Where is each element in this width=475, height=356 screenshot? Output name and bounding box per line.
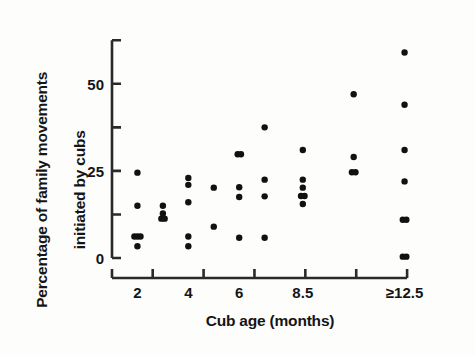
- data-point: [185, 175, 191, 181]
- data-point: [261, 124, 267, 130]
- data-point: [401, 49, 407, 55]
- x-tick-label-8.5: 8.5: [292, 284, 313, 301]
- data-point: [261, 235, 267, 241]
- data-point: [137, 233, 143, 239]
- data-point: [401, 147, 407, 153]
- data-point: [300, 201, 306, 207]
- y-tick-label-0: 0: [64, 250, 104, 267]
- data-point: [211, 184, 217, 190]
- data-point: [350, 154, 356, 160]
- y-tick-label-50: 50: [64, 75, 104, 92]
- x-tick-label-6: 6: [235, 284, 243, 301]
- data-point: [300, 184, 306, 190]
- data-point: [261, 176, 267, 182]
- data-point: [160, 203, 166, 209]
- data-point: [185, 199, 191, 205]
- data-point: [401, 102, 407, 108]
- data-point: [161, 215, 167, 221]
- data-point: [403, 217, 409, 223]
- data-point: [238, 151, 244, 157]
- y-axis-spine: [112, 40, 121, 258]
- data-point: [352, 169, 358, 175]
- x-tick-label-2: 2: [133, 284, 141, 301]
- data-point: [403, 253, 409, 259]
- data-point: [300, 176, 306, 182]
- data-point: [236, 184, 242, 190]
- x-axis-spine: [112, 269, 407, 278]
- data-point: [261, 193, 267, 199]
- data-point: [134, 203, 140, 209]
- data-point: [185, 243, 191, 249]
- data-point: [301, 193, 307, 199]
- data-point: [185, 233, 191, 239]
- data-point: [300, 147, 306, 153]
- data-point: [211, 223, 217, 229]
- data-points: [131, 49, 409, 260]
- axes: [112, 40, 407, 278]
- data-point: [185, 182, 191, 188]
- x-tick-label-4: 4: [184, 284, 192, 301]
- data-point: [401, 178, 407, 184]
- data-point: [236, 194, 242, 200]
- x-tick-label-12.5: ≥12.5: [386, 284, 423, 301]
- x-axis-label: Cub age (months): [110, 312, 430, 330]
- y-tick-label-25: 25: [64, 162, 104, 179]
- data-point: [236, 235, 242, 241]
- data-point: [134, 169, 140, 175]
- scatter-plot-figure: Percentage of family movements initiated…: [0, 0, 475, 356]
- data-point: [134, 243, 140, 249]
- data-point: [350, 91, 356, 97]
